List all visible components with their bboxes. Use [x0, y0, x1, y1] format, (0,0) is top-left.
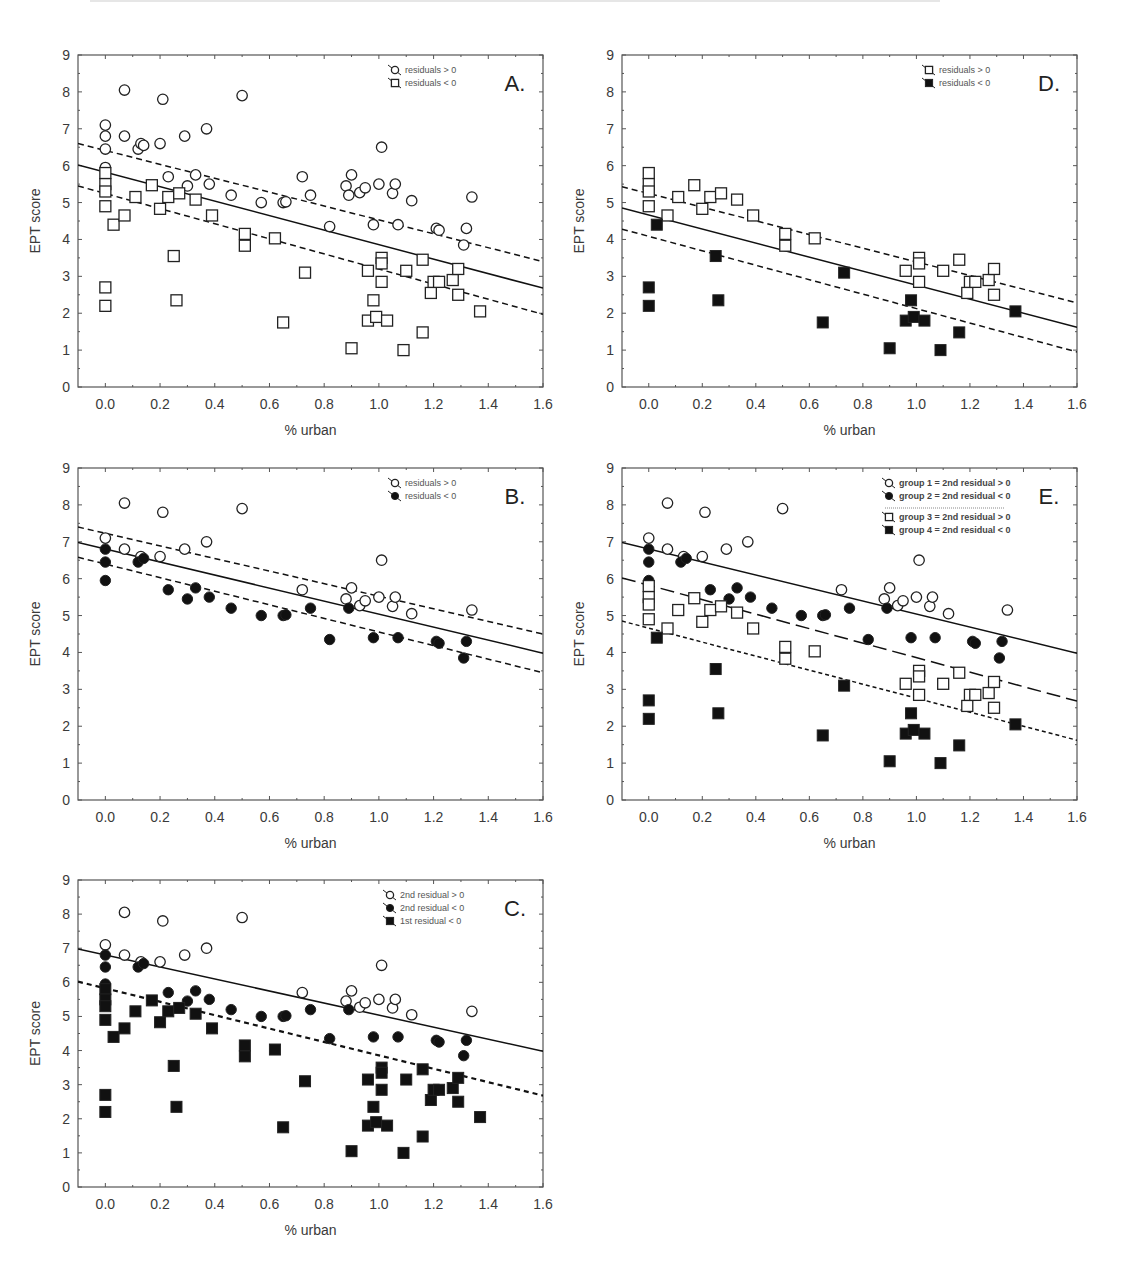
data-point — [705, 585, 715, 595]
x-tick-label: 0.4 — [746, 396, 766, 412]
data-point — [108, 219, 119, 230]
data-point — [673, 605, 684, 616]
data-point — [190, 170, 200, 180]
data-point — [962, 700, 973, 711]
data-point — [362, 265, 373, 276]
data-point — [168, 1060, 179, 1071]
data-point — [713, 708, 724, 719]
data-point — [256, 197, 266, 207]
data-point — [368, 219, 378, 229]
data-point — [190, 583, 200, 593]
data-point — [360, 998, 370, 1008]
y-tick-label: 9 — [62, 47, 70, 63]
data-point — [700, 507, 710, 517]
data-point — [119, 85, 129, 95]
data-point — [297, 585, 307, 595]
data-point — [163, 987, 173, 997]
data-point — [174, 1002, 185, 1013]
data-point — [417, 1064, 428, 1075]
data-point — [935, 758, 946, 769]
x-tick-label: 0.8 — [314, 396, 334, 412]
data-point — [643, 695, 654, 706]
data-point — [809, 233, 820, 244]
y-tick-label: 7 — [606, 121, 614, 137]
data-point — [732, 607, 743, 618]
data-point — [970, 638, 980, 648]
data-point — [100, 575, 110, 585]
data-point — [962, 287, 973, 298]
data-point — [346, 583, 356, 593]
legend-label: residuals > 0 — [405, 478, 456, 488]
data-point — [780, 641, 791, 652]
data-point — [256, 1011, 266, 1021]
data-point — [204, 179, 214, 189]
data-point — [368, 295, 379, 306]
y-tick-label: 0 — [62, 1179, 70, 1195]
data-point — [155, 957, 165, 967]
data-point — [119, 498, 129, 508]
data-point — [954, 327, 965, 338]
legend-label: 2nd residual > 0 — [400, 890, 464, 900]
regression-lines — [78, 527, 543, 673]
data-point — [278, 317, 289, 328]
regression-lines — [78, 949, 543, 1096]
data-point — [716, 601, 727, 612]
data-point — [171, 1101, 182, 1112]
data-point — [239, 1051, 250, 1062]
data-point — [989, 289, 1000, 300]
data-point — [745, 592, 755, 602]
data-point — [434, 225, 444, 235]
data-point — [155, 551, 165, 561]
data-point — [839, 267, 850, 278]
data-point — [179, 950, 189, 960]
x-tick-label: 0.2 — [150, 1196, 170, 1212]
faint-page-header — [90, 0, 940, 2]
legend-marker-filled-circle — [386, 904, 393, 911]
data-point — [651, 219, 662, 230]
scatter-plot-e: 01234567890.00.20.40.60.81.01.21.41.6% u… — [562, 458, 1097, 862]
data-point — [100, 557, 110, 567]
data-point — [324, 1033, 334, 1043]
data-point — [382, 315, 393, 326]
data-point — [643, 201, 654, 212]
data-point — [817, 730, 828, 741]
data-point — [204, 592, 214, 602]
series-filled-square — [100, 984, 486, 1159]
legend-label: residuals > 0 — [405, 65, 456, 75]
y-axis-title: EPT score — [571, 188, 587, 253]
data-point — [281, 1011, 291, 1021]
panel-d: 01234567890.00.20.40.60.81.01.21.41.6% u… — [562, 45, 1097, 449]
data-point — [269, 233, 280, 244]
data-point — [390, 994, 400, 1004]
data-point — [914, 555, 924, 565]
data-point — [919, 315, 930, 326]
data-point — [863, 634, 873, 644]
data-point — [662, 623, 673, 634]
x-axis-title: % urban — [284, 1222, 336, 1238]
y-tick-label: 1 — [606, 755, 614, 771]
x-axis-title: % urban — [823, 422, 875, 438]
legend-marker-filled-square — [386, 917, 393, 924]
legend-label: residuals < 0 — [405, 491, 456, 501]
data-point — [417, 254, 428, 265]
data-point — [732, 583, 742, 593]
data-point — [390, 179, 400, 189]
data-point — [371, 311, 382, 322]
data-point — [171, 295, 182, 306]
data-point — [475, 306, 486, 317]
x-axis-title: % urban — [823, 835, 875, 851]
data-point — [748, 623, 759, 634]
data-point — [100, 950, 110, 960]
data-point — [434, 1037, 444, 1047]
data-point — [643, 186, 654, 197]
data-point — [453, 263, 464, 274]
data-point — [919, 728, 930, 739]
data-point — [716, 188, 727, 199]
data-point — [346, 1146, 357, 1157]
data-point — [374, 179, 384, 189]
x-tick-label: 1.2 — [424, 1196, 444, 1212]
data-point — [376, 1084, 387, 1095]
data-point — [673, 192, 684, 203]
legend-label: residuals < 0 — [939, 78, 990, 88]
data-point — [461, 223, 471, 233]
